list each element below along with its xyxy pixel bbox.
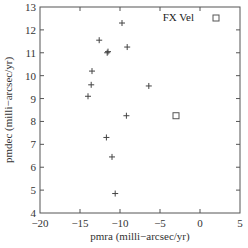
y-tick-label: 10 — [25, 70, 37, 82]
y-tick-label: 12 — [25, 24, 36, 36]
data-points — [85, 20, 179, 197]
plus-marker-icon — [112, 191, 118, 197]
plus-marker-icon — [103, 134, 109, 140]
plus-marker-icon — [89, 68, 95, 74]
y-tick-label: 9 — [31, 93, 37, 105]
plus-marker-icon — [88, 82, 94, 88]
plus-marker-icon — [146, 83, 152, 89]
y-tick-label: 8 — [31, 115, 37, 127]
y-axis-ticks: 45678910111213 — [25, 1, 240, 219]
legend: FX Vel — [163, 11, 219, 23]
x-axis-ticks: −20−15−10−505 — [31, 7, 243, 229]
square-marker-icon — [173, 113, 179, 119]
y-tick-label: 5 — [31, 184, 37, 196]
plus-marker-icon — [123, 113, 129, 119]
y-tick-label: 6 — [31, 161, 37, 173]
x-tick-label: −5 — [154, 217, 166, 229]
plus-marker-icon — [109, 154, 115, 160]
y-tick-label: 4 — [31, 207, 37, 219]
plus-marker-icon — [124, 44, 130, 50]
y-axis-title: pmdec (milli−arcsec/yr) — [2, 57, 15, 163]
x-axis-title: pmra (milli−arcsec/yr) — [90, 230, 190, 243]
plot-frame — [40, 7, 240, 213]
plus-marker-icon — [104, 50, 110, 56]
y-tick-label: 13 — [25, 1, 37, 13]
legend-label: FX Vel — [163, 11, 194, 23]
x-tick-label: −15 — [71, 217, 89, 229]
plus-marker-icon — [85, 93, 91, 99]
plus-marker-icon — [105, 49, 111, 55]
y-tick-label: 11 — [25, 47, 36, 59]
x-tick-label: 5 — [237, 217, 243, 229]
y-tick-label: 7 — [31, 138, 37, 150]
legend-square-marker-icon — [213, 15, 219, 21]
plus-marker-icon — [96, 37, 102, 43]
x-tick-label: 0 — [197, 217, 203, 229]
x-tick-label: −10 — [111, 217, 129, 229]
scatter-chart: −20−15−10−505 45678910111213 pmra (milli… — [0, 0, 248, 248]
plus-marker-icon — [119, 20, 125, 26]
